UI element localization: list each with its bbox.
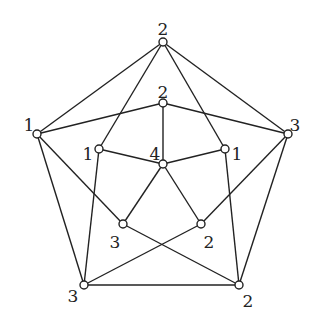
- node-inner_left: [95, 145, 103, 153]
- edge-inner_top-outer_right: [163, 103, 288, 134]
- node-inner_bottom_right: [197, 220, 205, 228]
- node-label-outer_right: 3: [290, 115, 301, 135]
- edge-center-inner_bottom_left: [123, 164, 163, 224]
- node-label-inner_right: 1: [232, 144, 243, 164]
- edge-outer_right-outer_bottom_right: [239, 134, 288, 285]
- edge-inner_bottom_right-outer_bottom_left: [84, 224, 201, 285]
- edge-inner_left-outer_bottom_left: [84, 149, 99, 285]
- node-inner_bottom_left: [119, 220, 127, 228]
- node-label-inner_bottom_left: 3: [110, 232, 121, 252]
- node-label-inner_left: 1: [83, 144, 94, 164]
- edge-inner_right-outer_bottom_right: [225, 149, 239, 285]
- graph-nodes: [33, 38, 292, 289]
- edge-outer_top-outer_left: [37, 42, 163, 134]
- edge-inner_top-outer_left: [37, 103, 163, 134]
- edge-center-inner_right: [163, 149, 225, 164]
- edge-outer_top-inner_right: [163, 42, 225, 149]
- node-outer_bottom_left: [80, 281, 88, 289]
- node-label-outer_bottom_left: 3: [68, 286, 79, 306]
- node-label-inner_top: 2: [158, 82, 169, 102]
- node-label-outer_bottom_right: 2: [243, 291, 254, 311]
- node-label-inner_bottom_right: 2: [204, 232, 215, 252]
- node-label-outer_left: 1: [24, 115, 35, 135]
- node-inner_right: [221, 145, 229, 153]
- edge-center-inner_bottom_right: [163, 164, 201, 224]
- edge-inner_bottom_left-outer_bottom_right: [123, 224, 239, 285]
- edge-outer_left-inner_bottom_left: [37, 134, 123, 224]
- graph-diagram: 23231212314: [0, 0, 315, 320]
- edge-outer_top-inner_left: [99, 42, 163, 149]
- node-outer_bottom_right: [235, 281, 243, 289]
- edge-outer_right-inner_bottom_right: [201, 134, 288, 224]
- node-label-center: 4: [150, 144, 161, 164]
- node-label-outer_top: 2: [158, 19, 169, 39]
- edge-outer_left-outer_bottom_left: [37, 134, 84, 285]
- edge-outer_top-outer_right: [163, 42, 288, 134]
- node-outer_top: [159, 38, 167, 46]
